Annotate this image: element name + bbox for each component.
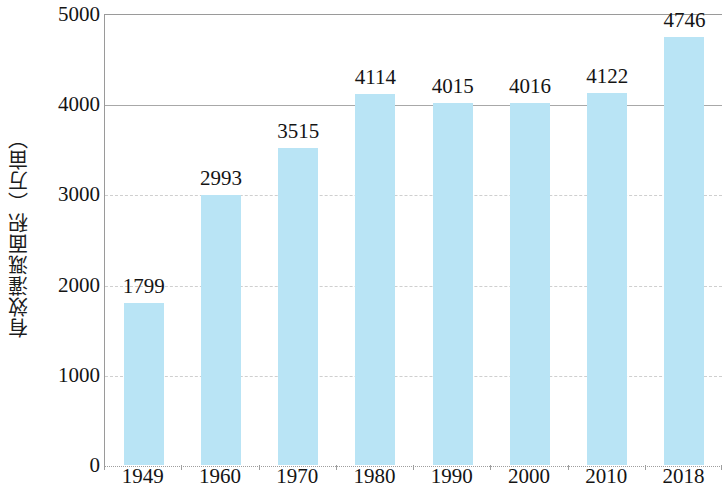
y-tick-label: 0	[36, 455, 100, 476]
bar-group[interactable]: 4114	[337, 15, 414, 465]
bar-value-label: 4016	[509, 76, 551, 97]
bar-group[interactable]: 4746	[646, 15, 723, 465]
bar-value-label: 4122	[586, 66, 628, 87]
y-tick-label: 1000	[36, 364, 100, 385]
x-tick-label: 1949	[122, 466, 164, 487]
x-tick-label: 1980	[353, 466, 395, 487]
x-axis-tick-labels: 19491960197019801990200020102018	[104, 466, 722, 490]
bar-group[interactable]: 4122	[569, 15, 646, 465]
y-tick-label: 5000	[36, 4, 100, 25]
x-tick-label: 1960	[199, 466, 241, 487]
bar-group[interactable]: 4016	[491, 15, 568, 465]
bar-value-label: 4746	[663, 10, 705, 31]
bar-value-label: 4114	[355, 67, 396, 88]
y-tick-label: 4000	[36, 94, 100, 115]
y-tick-label: 3000	[36, 184, 100, 205]
bar-chart: 有效灌溉面积（万亩） 010002000300040005000 1799299…	[0, 0, 726, 490]
bars-layer: 17992993351541144015401641224746	[105, 15, 722, 465]
bar[interactable]	[433, 103, 473, 465]
bar-group[interactable]: 3515	[260, 15, 337, 465]
bar[interactable]	[587, 93, 627, 465]
x-tick-label: 2010	[585, 466, 627, 487]
bar[interactable]	[278, 148, 318, 465]
y-axis-title-label: 有效灌溉面积（万亩）	[9, 128, 29, 338]
bar-value-label: 3515	[277, 121, 319, 142]
plot-area: 17992993351541144015401641224746	[104, 14, 722, 465]
bar[interactable]	[664, 37, 704, 465]
x-tick-label: 2000	[508, 466, 550, 487]
y-tick-label: 2000	[36, 274, 100, 295]
bar-value-label: 4015	[432, 76, 474, 97]
bar[interactable]	[124, 303, 164, 465]
bar-group[interactable]: 1799	[105, 15, 182, 465]
x-tick-label: 1990	[431, 466, 473, 487]
bar-group[interactable]: 2993	[182, 15, 259, 465]
x-tick-label: 1970	[276, 466, 318, 487]
bar-group[interactable]: 4015	[414, 15, 491, 465]
y-axis-tick-labels: 010002000300040005000	[34, 0, 100, 490]
bar[interactable]	[201, 195, 241, 465]
x-tick-label: 2018	[662, 466, 704, 487]
bar-value-label: 2993	[200, 168, 242, 189]
bar[interactable]	[510, 103, 550, 465]
bar[interactable]	[355, 94, 395, 465]
y-axis-title: 有效灌溉面积（万亩）	[2, 0, 36, 466]
bar-value-label: 1799	[123, 276, 165, 297]
